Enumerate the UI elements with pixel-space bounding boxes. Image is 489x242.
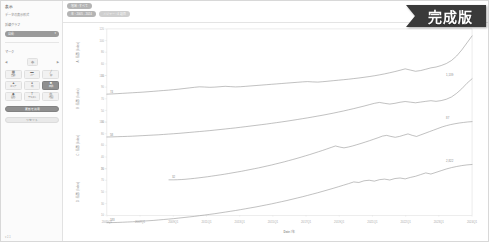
- svg-text:D : 指数 (Index): D : 指数 (Index): [75, 182, 80, 203]
- svg-text:50: 50: [101, 109, 104, 113]
- mark-shape-button[interactable]: ◆図形: [5, 92, 22, 101]
- svg-text:2015Q1: 2015Q1: [268, 220, 279, 224]
- svg-text:30: 30: [101, 202, 104, 206]
- status-badge-label: 完成版: [406, 5, 486, 27]
- mark-bar-button[interactable]: ▬バー: [24, 70, 41, 79]
- series-start-label-4: 183: [110, 218, 115, 222]
- svg-text:B : 指数 (Index): B : 指数 (Index): [75, 89, 80, 109]
- svg-text:40: 40: [101, 155, 104, 159]
- mark-map-label: 地図: [49, 97, 53, 99]
- stepper-next-icon[interactable]: ▶: [57, 60, 59, 64]
- filter-chip-region[interactable]: 地域 : すべて: [67, 3, 92, 9]
- mark-circle-button[interactable]: ●円: [24, 81, 41, 90]
- mark-text-label: テキスト: [28, 97, 36, 99]
- svg-text:C : 指数 (Index): C : 指数 (Index): [75, 135, 80, 156]
- svg-text:110: 110: [100, 74, 105, 78]
- svg-text:2022Q1: 2022Q1: [401, 220, 412, 224]
- filter-chip-year[interactable]: 年 : 2005 - 2024: [67, 11, 96, 17]
- svg-text:2024Q1: 2024Q1: [467, 220, 478, 224]
- svg-text:70: 70: [101, 178, 104, 182]
- measure-select[interactable]: 自動 ▾: [5, 31, 59, 38]
- mark-text-button[interactable]: Tテキスト: [24, 92, 41, 101]
- svg-text:100: 100: [99, 39, 104, 43]
- apply-button[interactable]: 更新を適用: [5, 106, 59, 112]
- svg-text:2013Q1: 2013Q1: [235, 220, 246, 224]
- sidebar-title: 表示: [5, 4, 59, 9]
- svg-text:2021Q1: 2021Q1: [367, 220, 378, 224]
- svg-text:60: 60: [101, 143, 104, 147]
- svg-text:2019Q1: 2019Q1: [334, 220, 345, 224]
- series-start-label-3: 32: [172, 175, 176, 179]
- filter-chip-region-label: 地域 : すべて: [71, 4, 88, 8]
- svg-text:90: 90: [101, 85, 104, 89]
- filter-chip-measure-label: メジャー : 4 項目: [103, 12, 126, 16]
- stepper-prev-icon[interactable]: ◀: [5, 60, 7, 64]
- line-chart[interactable]: A : 指数 (Index)406080100120B : 指数 (Index)…: [63, 23, 488, 241]
- series-line-1: [107, 36, 472, 94]
- mark-auto-label: 自動: [11, 75, 15, 77]
- sidebar-footer: v 2.1: [5, 236, 59, 241]
- svg-text:Date / 年: Date / 年: [283, 229, 295, 234]
- apply-button-label: 更新を適用: [25, 107, 40, 111]
- svg-text:10: 10: [101, 213, 104, 217]
- series-end-label-2: 1,139: [446, 73, 454, 77]
- stepper-value: 中: [27, 58, 38, 66]
- svg-text:90: 90: [101, 167, 104, 171]
- mark-auto-button[interactable]: ▦自動: [5, 70, 22, 79]
- mark-type-grid: ▦自動▬バー╱線▲エリア●円■四角◆図形Tテキスト◎地図: [5, 70, 59, 101]
- mark-line-label: 線: [50, 75, 52, 77]
- mark-square-label: 四角: [49, 86, 53, 88]
- filter-chip-measure[interactable]: メジャー : 4 項目: [99, 11, 130, 17]
- mark-map-button[interactable]: ◎地図: [42, 92, 59, 101]
- mark-bar-label: バー: [30, 75, 34, 77]
- chart-area: A : 指数 (Index)406080100120B : 指数 (Index)…: [63, 23, 488, 241]
- svg-text:80: 80: [101, 132, 104, 136]
- series-end-label-4: 2,822: [446, 159, 454, 163]
- svg-text:2009Q1: 2009Q1: [168, 220, 179, 224]
- svg-text:A : 指数 (Index): A : 指数 (Index): [75, 42, 80, 62]
- mark-circle-label: 円: [31, 86, 33, 88]
- reset-button-label: リセット: [26, 118, 38, 122]
- measure-label: 折線グラフ: [5, 22, 59, 27]
- svg-text:2011Q1: 2011Q1: [201, 220, 211, 224]
- series-line-2: [107, 79, 472, 137]
- measure-select-value: 自動: [8, 32, 14, 36]
- sidebar-subtitle: データの表示形式: [5, 12, 59, 17]
- series-end-label-3: 87: [446, 116, 450, 120]
- mark-shape-label: 図形: [11, 97, 15, 99]
- svg-text:50: 50: [101, 190, 104, 194]
- svg-text:80: 80: [101, 50, 104, 54]
- svg-text:2017Q1: 2017Q1: [301, 220, 312, 224]
- sidebar: 表示 データの表示形式 折線グラフ 自動 ▾ マーク ◀ 中 ▶ ▦自動▬バー╱…: [1, 1, 63, 241]
- main-panel: 地域 : すべて 年 : 2005 - 2024メジャー : 4 項目 A : …: [63, 1, 488, 241]
- series-line-4: [107, 164, 472, 222]
- svg-text:2023Q1: 2023Q1: [434, 220, 445, 224]
- series-start-label-2: 58: [110, 133, 114, 137]
- svg-text:100: 100: [99, 120, 104, 124]
- chevron-down-icon: ▾: [54, 32, 56, 35]
- sidebar-divider: [5, 42, 59, 43]
- reset-button[interactable]: リセット: [5, 117, 59, 123]
- mark-area-label: エリア: [10, 86, 16, 88]
- mark-square-button[interactable]: ■四角: [42, 81, 59, 90]
- filter-chip-year-label: 年 : 2005 - 2024: [71, 12, 92, 16]
- svg-text:70: 70: [101, 97, 104, 101]
- mark-area-button[interactable]: ▲エリア: [5, 81, 22, 90]
- svg-text:60: 60: [101, 62, 104, 66]
- svg-text:120: 120: [99, 27, 104, 31]
- marks-label: マーク: [5, 49, 59, 54]
- app-window: 表示 データの表示形式 折線グラフ 自動 ▾ マーク ◀ 中 ▶ ▦自動▬バー╱…: [0, 0, 489, 242]
- series-start-label-1: 74: [110, 90, 114, 94]
- size-stepper[interactable]: ◀ 中 ▶: [5, 58, 59, 66]
- status-badge: 完成版: [406, 5, 486, 27]
- mark-line-button[interactable]: ╱線: [42, 70, 59, 79]
